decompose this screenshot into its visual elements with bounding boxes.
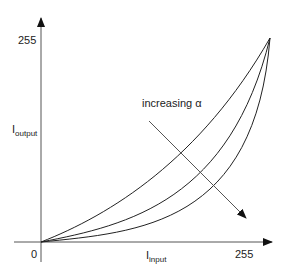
curve-high-alpha (41, 38, 270, 242)
y-axis-label: Ioutput (12, 124, 37, 135)
y-max-tick-label: 255 (18, 35, 36, 46)
origin-label: 0 (31, 249, 37, 260)
chart-canvas (0, 0, 287, 280)
curve-mid-alpha (41, 38, 270, 242)
increasing-alpha-arrow (149, 121, 246, 218)
x-max-tick-label: 255 (235, 249, 253, 260)
x-axis-label: Iinput (146, 250, 166, 261)
x-axis-label-sub: input (149, 255, 166, 264)
curve-low-alpha (41, 38, 270, 242)
increasing-alpha-annotation: increasing α (142, 98, 202, 109)
y-axis-label-sub: output (15, 129, 37, 138)
